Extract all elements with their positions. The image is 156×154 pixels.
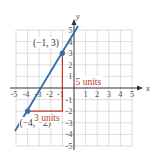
x-tick: -4: [22, 89, 30, 99]
y-tick: 3: [68, 48, 72, 58]
x-tick: 3: [107, 89, 111, 99]
point-neg4-neg2: [25, 109, 30, 114]
y-tick: -3: [65, 118, 72, 128]
point-neg1-3: [60, 51, 65, 56]
y-tick: 5: [68, 25, 72, 35]
x-axis-label: x: [145, 83, 150, 93]
x-tick: 1: [83, 89, 87, 99]
x-tick: -5: [10, 89, 17, 99]
x-tick: 4: [118, 89, 123, 99]
x-tick: 5: [130, 89, 134, 99]
y-tick: -5: [65, 141, 72, 151]
rise-label: 5 units: [76, 77, 102, 87]
coordinate-graph: x y -5 -4 -3 -2 -1 1 2 3 4 5 5 4 3 2 1 -…: [0, 0, 156, 154]
y-axis-label: y: [75, 11, 80, 21]
y-tick: -2: [65, 106, 72, 116]
x-tick: 2: [95, 89, 99, 99]
y-tick: 2: [68, 60, 72, 70]
point-label-neg1-3: (−1, 3): [33, 38, 59, 49]
y-tick: -4: [65, 129, 73, 139]
x-tick: -2: [46, 89, 53, 99]
run-label: 3 units: [34, 113, 60, 123]
y-tick: -1: [65, 95, 72, 105]
y-tick: 1: [68, 71, 72, 81]
x-axis-arrow-icon: [137, 86, 143, 91]
